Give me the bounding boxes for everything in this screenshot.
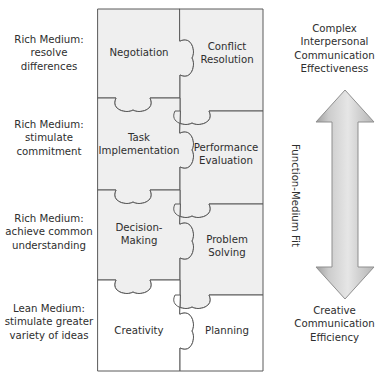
left-label-rich-achieve-common-understanding: Rich Medium: achieve common understandin… xyxy=(2,212,96,252)
puzzle-svg xyxy=(97,8,264,372)
figure-root: Rich Medium: resolve differences Rich Me… xyxy=(0,0,381,382)
left-label-rich-stimulate-commitment: Rich Medium: stimulate commitment xyxy=(2,118,96,158)
puzzle-diagram: Negotiation Conflict Resolution Task Imp… xyxy=(97,8,264,372)
left-label-lean-stimulate-variety: Lean Medium: stimulate greater variety o… xyxy=(2,302,96,342)
right-bottom-text: Creative Communication Efficiency xyxy=(288,304,381,344)
puzzle-piece-creativity xyxy=(98,280,194,371)
left-label-rich-resolve-differences: Rich Medium: resolve differences xyxy=(2,33,96,73)
double-headed-vertical-arrow-icon xyxy=(314,88,376,301)
right-top-text: Complex Interpersonal Communication Effe… xyxy=(288,22,381,76)
axis-label-function-medium-fit: Function-Medium Fit xyxy=(288,128,302,262)
puzzle-piece-negotiation xyxy=(98,9,194,112)
